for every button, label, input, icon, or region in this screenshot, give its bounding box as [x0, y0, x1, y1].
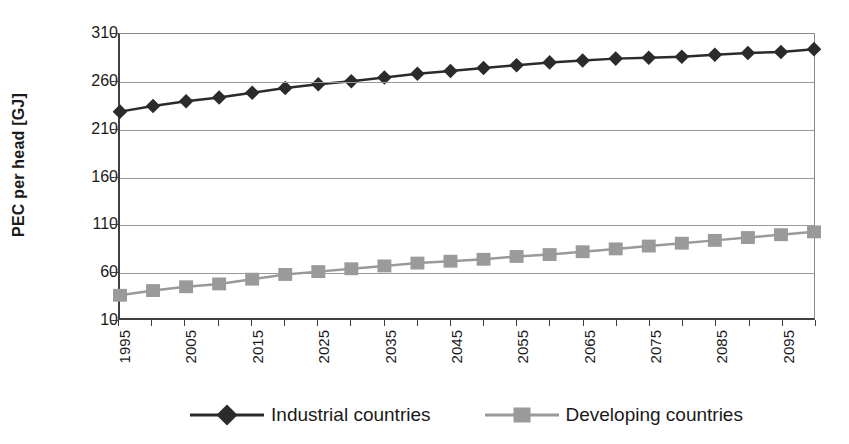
data-point-marker [245, 85, 260, 100]
data-point-marker [443, 64, 458, 79]
x-tick-mark [682, 320, 683, 326]
data-point-marker [674, 49, 689, 64]
y-tick-mark [110, 33, 118, 34]
data-point-marker [774, 228, 788, 241]
chart-container: PEC per head [GJ] 3102602101601106010 19… [0, 0, 849, 444]
data-point-marker [543, 248, 557, 261]
legend-item-developing[interactable]: Developing countries [485, 404, 743, 426]
x-tick-label: 1995 [116, 330, 133, 363]
data-point-marker [179, 280, 193, 293]
legend-item-industrial[interactable]: Industrial countries [190, 404, 430, 426]
legend-diamond-icon [216, 404, 237, 425]
x-tick-label: 2095 [779, 330, 796, 363]
data-point-marker [212, 277, 226, 290]
x-tick-mark [583, 320, 584, 326]
x-tick-mark [350, 320, 351, 326]
data-point-marker [807, 42, 822, 57]
y-tick-mark [110, 320, 118, 321]
series-line [120, 232, 814, 295]
gridline [120, 82, 814, 83]
x-tick-label: 2005 [182, 330, 199, 363]
x-tick-label: 2085 [713, 330, 730, 363]
x-tick-mark [516, 320, 517, 326]
x-tick-mark [151, 320, 152, 326]
y-tick-mark [110, 272, 118, 273]
data-point-marker [807, 225, 821, 238]
legend-swatch [485, 406, 559, 424]
y-tick-mark [110, 129, 118, 130]
legend-label: Developing countries [566, 404, 743, 426]
data-point-marker [642, 240, 656, 253]
x-tick-mark [715, 320, 716, 326]
data-point-marker [311, 265, 325, 278]
x-axis-labels: 1995200520152025203520452055206520752085… [118, 330, 815, 392]
series-svg [120, 34, 814, 318]
x-tick-mark [118, 320, 119, 326]
legend-square-icon [513, 408, 530, 423]
legend-swatch [190, 406, 264, 424]
x-tick-label: 2065 [580, 330, 597, 363]
gridline [120, 130, 814, 131]
series-layer [120, 34, 814, 318]
data-point-marker [146, 99, 161, 114]
x-tick-mark [815, 320, 816, 326]
data-point-marker [311, 77, 326, 92]
x-tick-label: 2035 [381, 330, 398, 363]
data-point-marker [542, 55, 557, 70]
y-tick-mark [110, 81, 118, 82]
gridline [120, 178, 814, 179]
data-point-marker [245, 273, 259, 286]
x-tick-mark [384, 320, 385, 326]
data-point-marker [444, 255, 458, 268]
data-point-marker [741, 231, 755, 244]
gridline [120, 225, 814, 226]
x-tick-mark [450, 320, 451, 326]
x-tick-mark [251, 320, 252, 326]
data-point-marker [708, 48, 723, 63]
x-tick-mark [284, 320, 285, 326]
x-tick-mark [616, 320, 617, 326]
data-point-marker [377, 260, 391, 273]
data-point-marker [146, 284, 160, 297]
data-point-marker [278, 268, 292, 281]
data-point-marker [609, 242, 623, 255]
x-tick-label: 2045 [447, 330, 464, 363]
plot-area [118, 33, 815, 320]
x-tick-mark [782, 320, 783, 326]
y-axis-title: PEC per head [GJ] [2, 0, 36, 330]
legend-label: Industrial countries [271, 404, 430, 426]
x-tick-mark [417, 320, 418, 326]
data-point-marker [509, 58, 524, 73]
data-point-marker [575, 53, 590, 68]
gridline [120, 273, 814, 274]
x-tick-label: 2025 [315, 330, 332, 363]
data-point-marker [477, 253, 491, 266]
chart-legend: Industrial countriesDeveloping countries [118, 398, 815, 432]
x-tick-mark [218, 320, 219, 326]
data-point-marker [741, 46, 756, 61]
data-point-marker [708, 234, 722, 247]
y-axis-ticks: 3102602101601106010 [52, 0, 118, 330]
y-tick-mark [110, 224, 118, 225]
x-tick-label: 2055 [514, 330, 531, 363]
x-tick-mark [483, 320, 484, 326]
series-line [120, 49, 814, 111]
data-point-marker [608, 51, 623, 66]
data-point-marker [278, 81, 293, 96]
data-point-marker [774, 45, 789, 60]
data-point-marker [212, 90, 227, 105]
x-tick-label: 2015 [248, 330, 265, 363]
data-point-marker [675, 237, 689, 250]
y-tick-mark [110, 177, 118, 178]
data-point-marker [476, 61, 491, 76]
x-tick-mark [649, 320, 650, 326]
x-tick-label: 2075 [647, 330, 664, 363]
x-tick-mark [749, 320, 750, 326]
data-point-marker [510, 250, 524, 263]
data-point-marker [641, 50, 656, 65]
data-point-marker [576, 245, 590, 258]
data-point-marker [410, 257, 424, 270]
x-axis-ticks [118, 320, 815, 328]
x-tick-mark [317, 320, 318, 326]
x-tick-mark [549, 320, 550, 326]
